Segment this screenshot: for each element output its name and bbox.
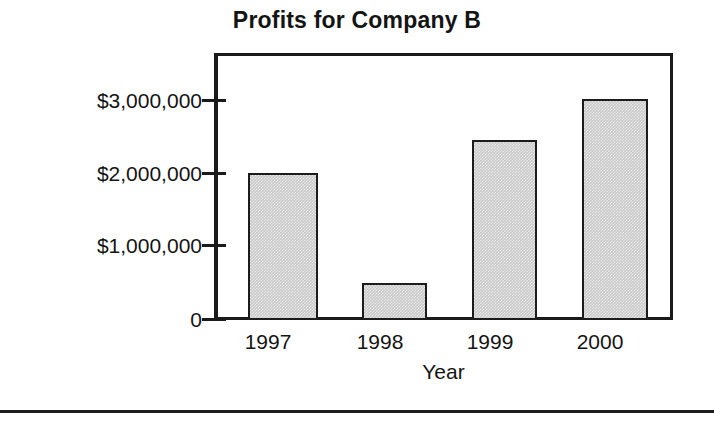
x-axis-title: Year: [214, 360, 673, 384]
x-tick-label-2000: 2000: [550, 330, 650, 354]
bar-1998: [362, 283, 427, 320]
bars-layer: [214, 53, 673, 320]
bar-1997: [248, 173, 318, 320]
y-tick-label-3000000: $3,000,000: [42, 89, 202, 113]
bar-2000: [582, 99, 648, 320]
bar-chart-figure: Profits for Company B $3,000,000 $2,000,…: [0, 0, 714, 424]
y-axis-labels: $3,000,000 $2,000,000 $1,000,000 0: [38, 0, 202, 424]
bar-1999: [472, 140, 537, 320]
x-tick-label-1997: 1997: [218, 330, 318, 354]
x-tick-label-1998: 1998: [330, 330, 430, 354]
page-divider-rule: [0, 410, 714, 413]
y-tick-label-0: 0: [42, 308, 202, 332]
y-tick-label-2000000: $2,000,000: [42, 162, 202, 186]
y-tick-label-1000000: $1,000,000: [42, 234, 202, 258]
x-tick-label-1999: 1999: [440, 330, 540, 354]
